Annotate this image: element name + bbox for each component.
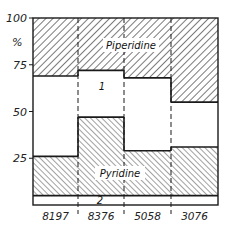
pyridine-region [171,147,218,196]
y-axis-unit: % [12,36,22,49]
pyridine-region [33,156,78,195]
region-1-label: 1 [99,81,105,92]
svg-text:75: 75 [13,59,27,72]
category-label: 3076 [181,210,208,222]
pyridine-label: Pyridine [95,166,145,180]
svg-text:Pyridine: Pyridine [100,168,140,179]
svg-text:25: 25 [13,152,27,165]
category-label: 8197 [42,210,69,222]
y-axis: 100755025 [6,12,33,165]
chart: 100755025 % Piperidine 1 Pyridine 2 8197… [0,0,232,236]
piperidine-label: Piperidine [103,38,159,52]
category-label: 8376 [88,210,115,222]
region-2-label: 2 [97,195,103,206]
piperidine-region [171,18,218,102]
svg-text:50: 50 [13,106,27,119]
piperidine-region [33,18,78,76]
svg-text:100: 100 [6,12,27,25]
x-axis-categories: 8197837650583076 [42,210,208,222]
pyridine-region [78,117,124,196]
category-label: 5058 [134,210,161,222]
svg-text:Piperidine: Piperidine [106,40,156,51]
